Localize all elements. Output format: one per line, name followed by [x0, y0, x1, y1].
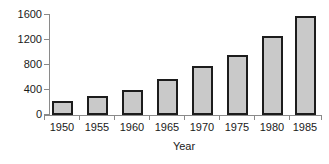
- bar-1950: [52, 101, 73, 115]
- x-tick-mark-2: [114, 115, 115, 120]
- bar-slot-1975: [227, 0, 248, 115]
- bar-1965: [157, 79, 178, 115]
- bar-1970: [192, 66, 213, 115]
- bar-1980: [262, 36, 283, 115]
- x-tick-mark-4: [184, 115, 185, 120]
- x-tick-mark-0: [44, 115, 45, 120]
- x-tick-mark-5: [219, 115, 220, 120]
- bar-slot-1955: [87, 0, 108, 115]
- bar-slot-1980: [262, 0, 283, 115]
- x-axis-line: [44, 115, 322, 116]
- bar-1985: [295, 16, 316, 115]
- x-tick-mark-3: [149, 115, 150, 120]
- x-tick-mark-6: [254, 115, 255, 120]
- bar-slot-1960: [122, 0, 143, 115]
- bar-slot-1985: [295, 0, 316, 115]
- x-tick-mark-1: [79, 115, 80, 120]
- x-tick-label-1985: 1985: [283, 121, 327, 133]
- bar-slot-1950: [52, 0, 73, 115]
- bar-1955: [87, 96, 108, 115]
- x-axis-title: Year: [50, 140, 318, 152]
- bar-slot-1970: [192, 0, 213, 115]
- bar-slot-1965: [157, 0, 178, 115]
- bar-chart-figure: 1600 1200 800 400 0: [0, 0, 329, 164]
- bars-layer: [0, 0, 329, 115]
- bar-1960: [122, 90, 143, 115]
- x-tick-mark-7: [289, 115, 290, 120]
- bar-1975: [227, 55, 248, 115]
- x-tick-mark-8: [321, 115, 322, 120]
